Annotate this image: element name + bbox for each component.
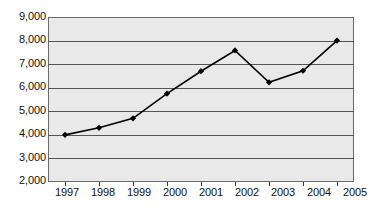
line-chart: 9,000 8,000 7,000 6,000 5,000 4,000 3,00… [0, 0, 379, 210]
x-tick-label: 2005 [335, 187, 375, 198]
x-tick-label: 2000 [155, 187, 195, 198]
y-tick-label: 2,000 [2, 175, 46, 186]
series-markers [62, 37, 340, 137]
x-axis-labels: 1997 1998 1999 2000 2001 2002 2003 2004 … [0, 187, 379, 207]
data-point [96, 125, 102, 131]
data-series [48, 17, 354, 182]
y-tick-label: 5,000 [2, 105, 46, 116]
x-tick-label: 2002 [227, 187, 267, 198]
y-tick-label: 6,000 [2, 81, 46, 92]
y-tick-label: 3,000 [2, 152, 46, 163]
series-line [65, 41, 337, 135]
x-tick-label: 1998 [83, 187, 123, 198]
y-axis-labels: 9,000 8,000 7,000 6,000 5,000 4,000 3,00… [0, 0, 46, 210]
x-tick-label: 2001 [191, 187, 231, 198]
x-tick-label: 1997 [47, 187, 87, 198]
x-tick-label: 1999 [119, 187, 159, 198]
y-tick-label: 8,000 [2, 34, 46, 45]
y-tick-label: 4,000 [2, 128, 46, 139]
y-tick-label: 7,000 [2, 58, 46, 69]
x-tick-label: 2003 [263, 187, 303, 198]
x-tick-label: 2004 [299, 187, 339, 198]
y-tick-label: 9,000 [2, 11, 46, 22]
data-point [62, 132, 68, 138]
